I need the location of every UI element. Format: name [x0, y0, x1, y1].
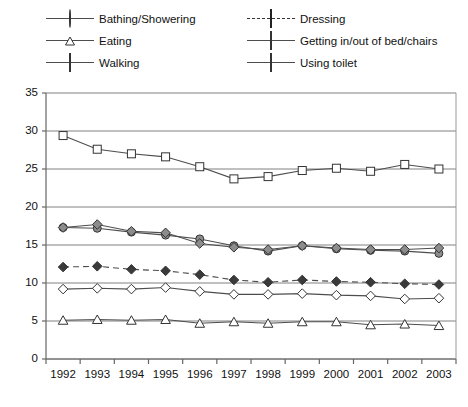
legend-item-using-toilet: Using toilet	[247, 52, 437, 74]
data-point-square-open	[93, 145, 101, 153]
data-point-diamond-filled-dark	[263, 277, 273, 287]
data-point-diamond-open	[400, 294, 410, 304]
legend-marker-triangle-icon	[46, 34, 94, 48]
data-point-diamond-filled-dark	[58, 262, 68, 272]
legend-label: Dressing	[295, 13, 345, 25]
series-line	[63, 224, 439, 249]
legend-label: Eating	[94, 35, 132, 47]
series-line	[63, 136, 439, 179]
data-point-diamond-filled-gray	[58, 223, 68, 233]
y-axis-tick-label: 35	[12, 86, 38, 98]
series-getting-in-out-of-bed-chairs	[58, 220, 443, 255]
data-point-square-open	[196, 163, 204, 171]
legend-item-eating: Eating	[46, 30, 196, 52]
legend-label: Using toilet	[295, 57, 357, 69]
legend-column-left: Bathing/Showering Eating Walking	[46, 8, 196, 74]
y-axis-tick-label: 10	[12, 276, 38, 288]
data-point-diamond-open	[229, 290, 239, 300]
data-point-diamond-filled-dark	[127, 265, 137, 275]
legend-label: Bathing/Showering	[94, 13, 196, 25]
y-axis-tick-label: 20	[12, 200, 38, 212]
legend-marker-diamond-filled-gray-icon	[247, 34, 295, 48]
chart-legend: Bathing/Showering Eating Walking	[46, 8, 456, 74]
data-point-diamond-open	[58, 284, 68, 294]
legend-marker-diamond-open-icon	[247, 56, 295, 70]
legend-marker-diamond-filled-dark-icon	[247, 12, 295, 26]
legend-item-bathing-showering: Bathing/Showering	[46, 8, 196, 30]
data-point-square-open	[367, 167, 375, 175]
data-point-square-open	[59, 132, 67, 140]
legend-column-right: Dressing Getting in/out of bed/chairs Us…	[247, 8, 437, 74]
data-point-square-open	[162, 153, 170, 161]
data-point-diamond-open	[332, 290, 342, 300]
data-point-diamond-filled-dark	[195, 270, 205, 280]
series-line	[63, 319, 439, 325]
data-point-diamond-open	[195, 287, 205, 297]
data-point-diamond-open	[366, 291, 376, 301]
legend-label: Walking	[94, 57, 139, 69]
line-chart: 35302520151050 1992199319941995199619971…	[0, 78, 468, 407]
legend-item-dressing: Dressing	[247, 8, 437, 30]
chart-page: Bathing/Showering Eating Walking	[0, 0, 468, 407]
legend-label: Getting in/out of bed/chairs	[295, 35, 437, 47]
y-axis-tick-label: 15	[12, 238, 38, 250]
legend-marker-circle-icon	[46, 12, 94, 26]
legend-item-getting-in-out-of-bed-chairs: Getting in/out of bed/chairs	[247, 30, 437, 52]
y-axis-tick-label: 25	[12, 162, 38, 174]
series-dressing	[58, 261, 443, 289]
y-axis-tick-label: 5	[12, 314, 38, 326]
series-line	[63, 266, 439, 284]
data-point-diamond-open	[263, 290, 273, 300]
data-point-diamond-open	[127, 284, 137, 294]
data-point-diamond-filled-dark	[400, 279, 410, 289]
data-point-diamond-filled-dark	[92, 261, 102, 271]
data-point-diamond-filled-dark	[161, 266, 171, 276]
data-point-square-open	[435, 165, 443, 173]
data-point-diamond-open	[161, 283, 171, 293]
data-point-square-open	[298, 167, 306, 175]
data-point-diamond-filled-gray	[297, 241, 307, 251]
data-point-square-open	[332, 164, 340, 172]
data-point-diamond-open	[434, 293, 444, 303]
data-point-square-open	[230, 175, 238, 183]
data-point-square-open	[127, 150, 135, 158]
data-point-diamond-filled-dark	[366, 277, 376, 287]
x-axis-tick-label: 2003	[419, 368, 459, 380]
data-point-diamond-filled-dark	[332, 277, 342, 287]
data-point-diamond-filled-dark	[434, 280, 444, 290]
series-walking	[59, 132, 443, 183]
legend-item-walking: Walking	[46, 52, 196, 74]
y-axis-tick-label: 30	[12, 124, 38, 136]
plot-area	[0, 78, 468, 407]
y-axis-tick-label: 0	[12, 352, 38, 364]
series-using-toilet	[58, 283, 443, 304]
series-line	[63, 288, 439, 299]
series-eating	[58, 315, 443, 330]
legend-marker-square-icon	[46, 56, 94, 70]
data-point-diamond-open	[92, 284, 102, 294]
data-point-square-open	[401, 160, 409, 168]
data-point-diamond-open	[297, 289, 307, 299]
data-point-square-open	[264, 173, 272, 181]
